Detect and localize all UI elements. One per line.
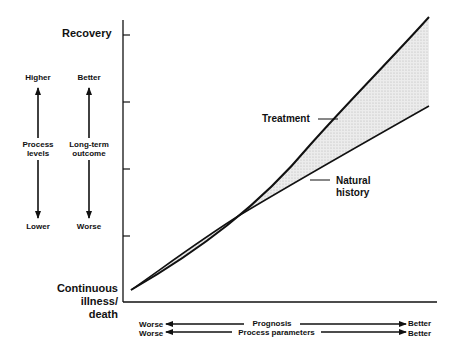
- label-line: Process: [13, 140, 63, 149]
- label-line: Continuous: [50, 282, 118, 295]
- label-line: outcome: [62, 149, 116, 158]
- continuous-illness-label: Continuous illness/ death: [50, 282, 118, 321]
- lower-label: Lower: [18, 222, 58, 231]
- label-line: Natural: [336, 175, 370, 187]
- label-line: illness/: [50, 295, 118, 308]
- label-line: death: [50, 308, 118, 321]
- recovery-label: Recovery: [62, 27, 112, 39]
- process-better-label: Better: [408, 329, 431, 338]
- y-axis-ticks: [123, 35, 130, 236]
- treatment-curve: [131, 17, 429, 290]
- natural-history-label: Natural history: [336, 175, 370, 199]
- label-line: history: [336, 187, 370, 199]
- process-levels-label: Process levels: [13, 140, 63, 158]
- higher-label: Higher: [18, 73, 58, 82]
- label-line: levels: [13, 149, 63, 158]
- better-label: Better: [69, 73, 109, 82]
- prognosis-better-label: Better: [408, 319, 431, 328]
- prognosis-label: Prognosis: [244, 319, 300, 328]
- prognosis-worse-label: Worse: [139, 320, 163, 329]
- process-parameters-label: Process parameters: [232, 328, 321, 337]
- long-term-outcome-label: Long-term outcome: [62, 140, 116, 158]
- worse-label: Worse: [69, 222, 109, 231]
- label-line: Long-term: [62, 140, 116, 149]
- treatment-label: Treatment: [262, 113, 310, 124]
- process-worse-label: Worse: [139, 329, 163, 338]
- treatment-benefit-area: [131, 17, 429, 290]
